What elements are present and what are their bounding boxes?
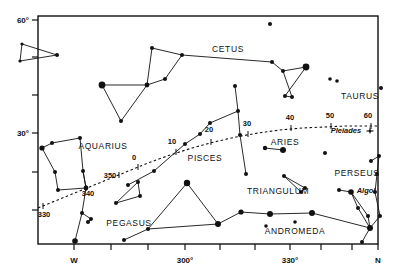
star-marker [20, 42, 23, 45]
ecliptic-degree-label: 40 [286, 113, 294, 122]
star-marker [78, 136, 82, 140]
star-marker [180, 53, 184, 57]
star-marker [379, 86, 383, 90]
star-marker [377, 154, 381, 158]
x-tick-label: N [375, 256, 381, 265]
constellation-label: CETUS [212, 44, 244, 54]
star-marker [290, 95, 294, 99]
ecliptic-degree-label: 10 [168, 137, 176, 146]
star-marker [323, 151, 327, 155]
y-tick-label: 30° [17, 129, 29, 138]
star-marker [263, 146, 267, 150]
star-marker [86, 220, 90, 224]
ecliptic-degree-label: 20 [205, 125, 213, 134]
star-marker [280, 147, 286, 153]
star-marker [136, 180, 140, 184]
star-marker [303, 64, 310, 71]
star-marker [244, 172, 248, 176]
star-marker [163, 77, 167, 81]
ecliptic-degree-label: 50 [326, 111, 334, 120]
star-marker [18, 59, 21, 62]
ecliptic-degree-label: 330 [38, 210, 51, 219]
star-marker [138, 194, 142, 198]
star-marker [267, 211, 273, 217]
star-marker [39, 145, 44, 150]
special-object-symbols [367, 128, 374, 134]
constellation-line [182, 55, 306, 97]
star-marker [309, 210, 315, 216]
star-marker [145, 83, 150, 88]
star-marker [126, 183, 130, 187]
star-marker [184, 180, 190, 186]
star-marker [183, 142, 187, 146]
star-marker [122, 238, 126, 242]
constellation-label: PEGASUS [106, 218, 151, 228]
constellation-label: AQUARIUS [78, 141, 127, 151]
x-tick-label: 300° [177, 256, 194, 265]
constellation-lines [20, 44, 380, 242]
ecliptic-degree-label: 30 [243, 119, 251, 128]
ecliptic-degree-label: 60 [364, 111, 372, 120]
ecliptic-degree-label: 0 [132, 153, 136, 162]
star-marker [152, 169, 156, 173]
star-marker [378, 214, 382, 218]
star-marker [282, 174, 286, 178]
star-marker [328, 77, 332, 81]
object-label: Algol [356, 186, 377, 195]
star-marker [198, 132, 202, 136]
star-marker [81, 169, 85, 173]
star-marker [356, 206, 360, 210]
star-marker [56, 188, 60, 192]
constellation-label: ARIES [271, 137, 300, 147]
constellation-label: ANDROMEDA [265, 226, 326, 236]
object-label: Pleiades [331, 126, 361, 135]
star-marker [335, 79, 339, 83]
star-marker [268, 22, 272, 26]
star-marker [53, 170, 57, 174]
star-chart-canvas: 3303403500102030405060 W300°330°N 60°30°… [0, 0, 408, 276]
star-marker [270, 60, 274, 64]
ecliptic-degree-label: 340 [82, 189, 95, 198]
constellation-label: PISCES [188, 153, 223, 163]
star-marker [238, 133, 242, 137]
star-marker [366, 214, 370, 218]
constellation-labels: CETUSTAURUSAQUARIUSPISCESARIESPERSEUSTRI… [78, 44, 379, 236]
star-marker [337, 188, 341, 192]
star-marker [238, 209, 243, 214]
star-marker [293, 220, 297, 224]
star-marker [80, 211, 84, 215]
x-axis-ticks: W300°330°N [70, 244, 381, 265]
star-marker [150, 46, 154, 50]
ecliptic-degree-label: 350 [104, 171, 117, 180]
star-marker [369, 159, 373, 163]
constellation-label: TRIANGULUM [247, 186, 309, 196]
star-marker [283, 94, 287, 98]
star-marker [215, 221, 221, 227]
constellation-line [124, 183, 218, 240]
star-marker [99, 82, 106, 89]
star-marker [281, 69, 285, 73]
star-marker [367, 225, 373, 231]
constellation-label: TAURUS [341, 91, 379, 101]
star-marker [55, 53, 59, 57]
star-chart: 3303403500102030405060 W300°330°N 60°30°… [0, 0, 408, 276]
star-marker [72, 238, 78, 244]
constellation-line [235, 86, 246, 174]
x-tick-label: W [70, 256, 78, 265]
star-marker [233, 84, 237, 88]
star-marker [360, 240, 364, 244]
star-marker [236, 109, 240, 113]
star-marker [50, 141, 54, 145]
star-points [18, 22, 383, 244]
pleiades-cluster-symbol [367, 128, 374, 134]
star-marker [348, 189, 354, 195]
y-tick-label: 60° [17, 16, 29, 25]
star-marker [114, 201, 118, 205]
star-marker [89, 217, 93, 221]
y-axis-ticks: 60°30° [17, 16, 38, 210]
constellation-line [128, 111, 238, 185]
constellation-label: PERSEUS [335, 168, 380, 178]
constellation-line [102, 85, 147, 121]
star-marker [119, 119, 123, 123]
x-tick-label: 330° [282, 256, 299, 265]
